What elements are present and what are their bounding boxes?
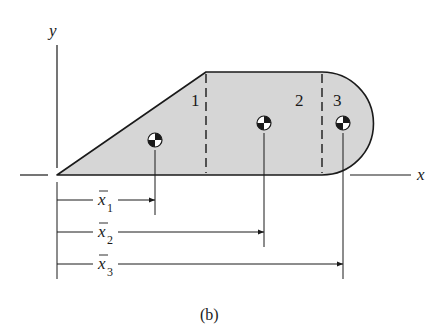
figure-caption: (b) (200, 306, 219, 324)
y-axis-label: y (47, 21, 57, 40)
svg-text:x: x (97, 222, 106, 241)
centroid-3-icon (336, 116, 350, 130)
part-label-1: 1 (191, 91, 200, 110)
svg-text:x: x (97, 190, 106, 209)
svg-text:3: 3 (107, 265, 113, 279)
centroid-1-icon (148, 133, 162, 147)
svg-text:x: x (97, 254, 106, 273)
part-label-2: 2 (295, 91, 304, 110)
x-axis-label: x (416, 165, 425, 184)
composite-area-diagram: y x 1 2 3 x 1 (0, 0, 447, 336)
composite-shape (57, 72, 373, 175)
centroid-2-icon (257, 116, 271, 130)
part-label-3: 3 (333, 91, 342, 110)
svg-text:1: 1 (107, 201, 113, 215)
svg-text:2: 2 (107, 233, 113, 247)
dimension-x2: x 2 (57, 222, 264, 247)
dimension-x3: x 3 (57, 254, 343, 279)
dimension-x1: x 1 (57, 190, 155, 215)
